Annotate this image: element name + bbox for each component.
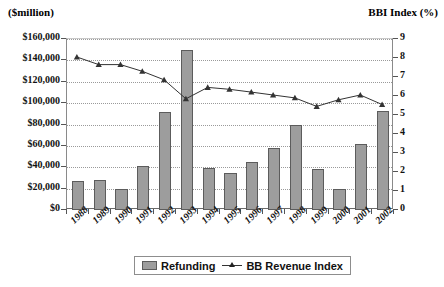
bar <box>355 144 367 210</box>
gridline <box>67 146 392 147</box>
y-axis-right-tick-label: 8 <box>400 50 424 61</box>
y-axis-left-tick-label: $60,000 <box>0 138 60 149</box>
y-axis-right-tick-label: 4 <box>400 126 424 137</box>
legend-item-bb-revenue-index: BB Revenue Index <box>222 260 343 272</box>
y-axis-right-tick-label: 0 <box>400 202 424 213</box>
y-axis-right-tickmark <box>393 114 398 115</box>
y-axis-left-tick-label: $40,000 <box>0 159 60 170</box>
gridline <box>67 167 392 168</box>
bar-swatch-icon <box>142 261 157 270</box>
gridline <box>67 60 392 61</box>
y-axis-left-tick-label: $80,000 <box>0 117 60 128</box>
gridline <box>67 39 392 40</box>
plot-area <box>66 38 393 209</box>
y-axis-right-tickmark <box>393 190 398 191</box>
y-axis-right-tickmark <box>393 57 398 58</box>
y-axis-right-tickmark <box>393 171 398 172</box>
legend-item-refunding: Refunding <box>142 260 215 272</box>
y-axis-right-tickmark <box>393 38 398 39</box>
y-axis-right-tick-label: 6 <box>400 88 424 99</box>
y-axis-right-tickmark <box>393 76 398 77</box>
gridline <box>67 125 392 126</box>
x-axis-tickmark <box>66 209 67 214</box>
legend-label-refunding: Refunding <box>161 260 215 272</box>
y-axis-right-tick-label: 7 <box>400 69 424 80</box>
y-axis-right-tick-label: 2 <box>400 164 424 175</box>
y-axis-left-tick-label: $140,000 <box>0 52 60 63</box>
chart-container: ($million) BBI Index (%) $0$20,000$40,00… <box>0 0 444 287</box>
bar <box>159 112 171 210</box>
y-axis-left-tick-label: $160,000 <box>0 31 60 42</box>
bar <box>268 148 280 210</box>
bar <box>290 125 302 211</box>
right-axis-title: BBI Index (%) <box>368 6 438 18</box>
y-axis-left-tick-label: $100,000 <box>0 95 60 106</box>
bar <box>377 111 389 210</box>
y-axis-right-tickmark <box>393 95 398 96</box>
y-axis-left-tick-label: $120,000 <box>0 74 60 85</box>
chart-legend: Refunding BB Revenue Index <box>134 256 351 275</box>
left-axis-title: ($million) <box>8 6 54 18</box>
gridline <box>67 82 392 83</box>
bar <box>181 50 193 210</box>
y-axis-right-tickmark <box>393 133 398 134</box>
y-axis-left-tick-label: $0 <box>0 202 60 213</box>
y-axis-right-tick-label: 1 <box>400 183 424 194</box>
y-axis-right-tickmark <box>393 152 398 153</box>
y-axis-right-tick-label: 5 <box>400 107 424 118</box>
y-axis-left-tick-label: $20,000 <box>0 181 60 192</box>
legend-label-bb-revenue-index: BB Revenue Index <box>246 260 343 272</box>
gridline <box>67 103 392 104</box>
bar <box>246 162 258 210</box>
y-axis-right-tick-label: 3 <box>400 145 424 156</box>
line-marker-icon <box>222 261 242 270</box>
y-axis-right-tick-label: 9 <box>400 31 424 42</box>
